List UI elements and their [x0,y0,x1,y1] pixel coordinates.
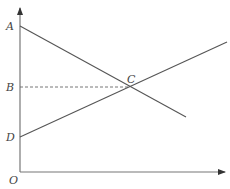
geometry-diagram: A B C D O [0,0,230,189]
line-a-through-c [20,26,186,117]
line-d-through-c [20,42,227,137]
point-label-c: C [127,73,136,86]
point-label-d: D [5,131,15,144]
point-label-b: B [5,81,14,94]
point-label-a: A [5,20,14,33]
origin-label-o: O [9,174,18,187]
